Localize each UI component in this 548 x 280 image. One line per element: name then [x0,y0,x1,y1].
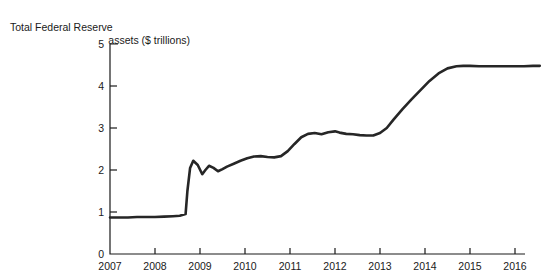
x-axis-tick-label: 2014 [413,260,437,272]
x-axis-tick-label: 2007 [98,260,122,272]
data-series-group [110,66,540,218]
y-axis-ticks: 012345 [98,38,117,260]
y-axis-tick-label: 4 [98,80,104,92]
x-axis-tick-label: 2012 [323,260,347,272]
x-axis-tick-label: 2008 [143,260,167,272]
y-axis-tick-label: 5 [98,38,104,50]
axis-lines [110,44,525,254]
x-axis-tick-label: 2015 [458,260,482,272]
chart-axes [110,44,525,254]
x-axis-tick-label: 2013 [368,260,392,272]
chart-container: Total Federal Reserve assets ($ trillion… [0,0,548,280]
x-axis-tick-label: 2009 [188,260,212,272]
y-axis-tick-label: 3 [98,122,104,134]
x-axis-tick-label: 2011 [279,260,302,272]
y-axis-tick-label: 2 [98,164,104,176]
y-axis-tick-label: 0 [98,248,104,260]
x-axis-tick-label: 2010 [233,260,257,272]
y-axis-tick-label: 1 [98,206,104,218]
x-axis-tick-label: 2016 [503,260,527,272]
x-axis-ticks: 2007200820092010201120122013201420152016 [98,248,527,272]
data-line-total-fed-assets [110,66,540,218]
line-chart-plot: 012345 200720082009201020112012201320142… [0,0,548,280]
